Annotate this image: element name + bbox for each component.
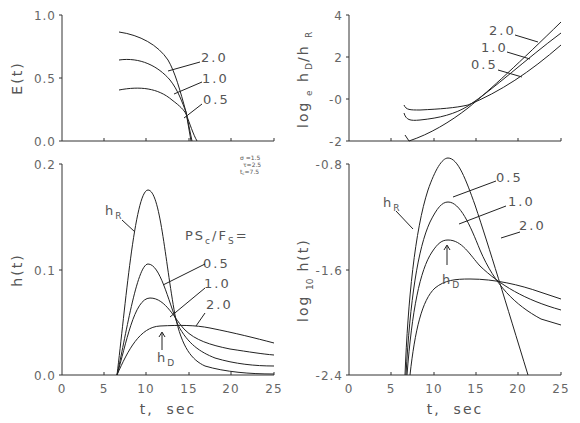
br-ann-arrow [501, 232, 520, 238]
tr-ytick-neg2: -2 [329, 135, 343, 149]
bl-ann-ps-ratio: PSc/FS= [185, 228, 249, 246]
bl-curve-2-0 [117, 325, 274, 375]
br-xtick-20: 20 [509, 382, 526, 396]
panel-h-t: 0.2 0.1 0.0 0 5 10 15 20 25 t, sec h(t) … [9, 154, 283, 417]
br-ann-2-0: 2.0 [519, 218, 546, 233]
svg-text:tc=7.5: tc=7.5 [240, 168, 259, 176]
svg-text:log: log [295, 295, 311, 322]
parameters-note: σ =1.5 τ=2.5 tc=7.5 [240, 154, 261, 176]
br-ytick-neg08: -0.8 [316, 158, 343, 172]
figure: 1.0 0.5 0.0 E(t) 2.0 1.0 0.5 4 2 -0 -2 l… [0, 0, 580, 423]
tr-ytick-0: -0 [329, 93, 343, 107]
br-xtick-5: 5 [387, 382, 396, 396]
tr-ann-1-0: 1.0 [481, 40, 508, 55]
svg-text:log: log [295, 101, 311, 128]
tr-ytick-2: 2 [334, 51, 343, 65]
tl-curve-2-0 [119, 32, 191, 141]
br-curve-2-0 [410, 279, 561, 375]
br-ann-hD: hD [442, 272, 461, 290]
bl-ytick-02: 0.2 [34, 158, 56, 172]
bl-ytick-0: 0.0 [34, 369, 56, 383]
tr-ann-0-5: 0.5 [471, 57, 498, 72]
svg-text:D: D [304, 63, 314, 70]
svg-text:e: e [304, 90, 314, 96]
bl-xtick-0: 0 [58, 382, 67, 396]
tr-ytick-4: 4 [334, 9, 343, 23]
tl-curve-0-5 [119, 88, 197, 141]
bl-xtick-15: 15 [180, 382, 197, 396]
svg-text:10: 10 [305, 278, 315, 290]
bl-curve-0-5 [117, 264, 274, 375]
br-ann-arrow [396, 211, 413, 229]
bl-ann-0-5: 0.5 [203, 256, 230, 271]
panel-loge-ratio: 4 2 -0 -2 log e h D /h R 2.0 1.0 0.5 [295, 9, 561, 149]
bl-ann-hR: hR [105, 203, 124, 221]
tl-ytick-0: 0.0 [34, 135, 56, 149]
tl-ann-2-0: 2.0 [201, 50, 228, 65]
tl-ann-arrow [168, 62, 200, 71]
br-ylabel: log 10 h(t) [295, 238, 315, 322]
br-curve-hR [405, 158, 528, 375]
tr-ann-arrow [515, 35, 538, 42]
br-ann-arrow [453, 181, 496, 197]
br-ytick-neg16: -1.6 [316, 264, 343, 278]
br-curve-1-0 [407, 240, 561, 375]
bl-curve-1-0 [117, 298, 274, 375]
tl-ylabel: E(t) [9, 61, 25, 94]
svg-text:/h: /h [295, 44, 311, 62]
br-xtick-15: 15 [467, 382, 484, 396]
br-ann-hR: hR [383, 195, 402, 213]
tl-ann-0-5: 0.5 [203, 92, 230, 107]
svg-text:h(t): h(t) [295, 238, 311, 278]
panel-e-t: 1.0 0.5 0.0 E(t) 2.0 1.0 0.5 [9, 9, 274, 149]
tl-ann-1-0: 1.0 [202, 71, 229, 86]
bl-ann-arrow [196, 313, 205, 326]
bl-ann-2-0: 2.0 [206, 297, 233, 312]
br-xtick-0: 0 [345, 382, 354, 396]
svg-text:h: h [295, 71, 311, 82]
tl-ytick-1: 1.0 [34, 9, 56, 23]
bl-xtick-25: 25 [265, 382, 282, 396]
panel-log10-h-t: -0.8 -1.6 -2.4 0 5 10 15 20 25 t, sec lo… [295, 158, 570, 417]
bl-xtick-10: 10 [137, 382, 154, 396]
tr-ann-2-0: 2.0 [489, 23, 516, 38]
br-xtick-10: 10 [425, 382, 442, 396]
bl-ann-hD: hD [157, 350, 176, 368]
br-ytick-neg24: -2.4 [316, 369, 343, 383]
tl-ytick-05: 0.5 [34, 72, 56, 86]
bl-ytick-01: 0.1 [34, 264, 56, 278]
bl-ann-arrow [170, 288, 205, 317]
br-ann-arrow [459, 206, 506, 224]
bl-xtick-20: 20 [222, 382, 239, 396]
bl-xlabel: t, sec [140, 401, 196, 417]
bl-ann-arrow [163, 264, 205, 285]
svg-text:τ=2.5: τ=2.5 [243, 161, 261, 168]
br-xtick-25: 25 [552, 382, 569, 396]
bl-ann-1-0: 1.0 [204, 276, 231, 291]
svg-text:R: R [304, 32, 314, 38]
br-ann-1-0: 1.0 [508, 194, 535, 209]
tl-curve-1-0 [119, 59, 192, 141]
br-xlabel: t, sec [427, 401, 483, 417]
bl-xtick-5: 5 [100, 382, 109, 396]
br-ann-0-5: 0.5 [496, 170, 523, 185]
tr-ylabel: log e h D /h R [295, 32, 314, 128]
tl-ann-arrow [184, 104, 202, 118]
bl-ylabel: h(t) [9, 253, 25, 286]
svg-text:σ =1.5: σ =1.5 [240, 154, 260, 161]
bl-ann-arrow [122, 220, 135, 232]
